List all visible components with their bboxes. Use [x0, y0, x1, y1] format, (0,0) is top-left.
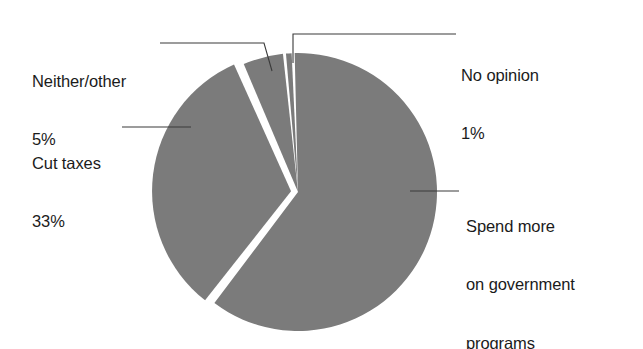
label-spend-more-line2: on government	[466, 275, 575, 294]
label-no-opinion-name: No opinion	[461, 66, 539, 85]
label-cut-taxes-name: Cut taxes	[32, 154, 101, 173]
label-cut-taxes: Cut taxes 33%	[32, 115, 101, 271]
label-neither-other-name: Neither/other	[32, 72, 126, 91]
label-cut-taxes-percent: 33%	[32, 212, 101, 231]
pie-chart-figure: Neither/other 5% Cut taxes 33% No opinio…	[0, 0, 643, 349]
label-no-opinion: No opinion 1%	[461, 27, 539, 183]
label-no-opinion-percent: 1%	[461, 124, 539, 143]
label-spend-more-line3: programs	[466, 334, 575, 349]
label-spend-more: Spend more on government programs 61%	[466, 178, 575, 349]
label-spend-more-line1: Spend more	[466, 217, 575, 236]
